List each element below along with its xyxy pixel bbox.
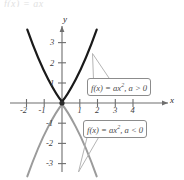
callout-negative-expr: f(x) = ax <box>87 125 117 135</box>
xtick-label-3: 3 <box>113 105 117 115</box>
callout-positive-condition: , a > 0 <box>124 83 147 93</box>
xtick-label--1: -1 <box>39 105 46 115</box>
callout-negative-condition: , a < 0 <box>120 125 143 135</box>
callout-negative-a: f(x) = ax2, a < 0 <box>83 120 147 138</box>
xtick-label--2: -2 <box>20 105 27 115</box>
x-axis-label: x <box>170 95 174 105</box>
callout-positive-a: f(x) = ax2, a > 0 <box>87 78 151 96</box>
ytick-label--3: -3 <box>46 158 53 168</box>
xtick-label-2: 2 <box>95 105 99 115</box>
ytick-label--1: -1 <box>46 118 53 128</box>
xtick-label-4: 4 <box>131 105 135 115</box>
vertex-point <box>59 100 64 105</box>
ytick-label-1: 1 <box>50 78 54 88</box>
ytick-label-2: 2 <box>50 58 54 68</box>
y-axis-label: y <box>63 14 67 24</box>
xtick-label-1: 1 <box>78 105 82 115</box>
callout-positive-expr: f(x) = ax <box>91 83 121 93</box>
ytick-label--2: -2 <box>46 138 53 148</box>
callout-leader-positive <box>93 54 111 80</box>
ytick-label-3: 3 <box>50 37 54 47</box>
